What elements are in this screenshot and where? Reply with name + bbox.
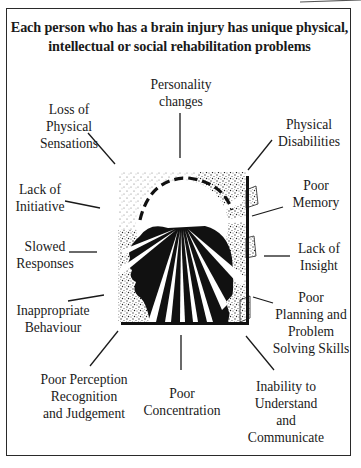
line-physical-disabilities: [248, 140, 272, 170]
line-poor-memory: [252, 207, 283, 216]
label-inappropriate-behaviour: Inappropriate Behaviour: [10, 302, 96, 336]
line-initiative: [65, 201, 100, 208]
label-poor-memory: Poor Memory: [286, 177, 346, 211]
line-perception: [90, 331, 118, 366]
label-lack-of-insight: Lack of Insight: [292, 240, 346, 274]
label-lack-of-initiative: Lack of Initiative: [12, 181, 68, 215]
label-loss-of-physical-sensations: Loss of Physical Sensations: [38, 101, 100, 152]
line-behaviour: [68, 295, 104, 301]
label-physical-disabilities: Physical Disabilities: [272, 116, 346, 150]
label-personality-changes: Personality changes: [138, 76, 224, 110]
label-slowed-responses: Slowed Responses: [10, 238, 80, 272]
brain-injury-head-icon: [118, 172, 258, 325]
label-poor-perception: Poor Perception Recognition and Judgemen…: [22, 371, 146, 422]
label-inability-to-understand: Inability to Understand and Communicate: [238, 378, 334, 446]
label-poor-planning: Poor Planning and Problem Solving Skills: [268, 289, 354, 357]
label-poor-concentration: Poor Concentration: [134, 385, 230, 419]
